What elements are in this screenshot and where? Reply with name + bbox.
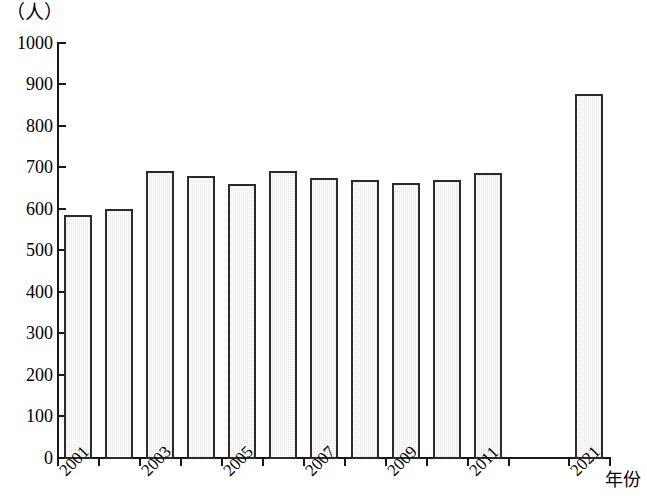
y-tick-label-800: 800 xyxy=(1,117,53,135)
y-tick-label-400: 400 xyxy=(1,283,53,301)
x-tick-3 xyxy=(180,459,182,466)
x-tick-5 xyxy=(262,459,264,466)
y-tick-label-100: 100 xyxy=(1,407,53,425)
bar-2002 xyxy=(105,209,133,459)
bar-2003 xyxy=(146,171,174,459)
y-tick-700 xyxy=(59,166,66,168)
bar-2021 xyxy=(575,94,603,459)
y-tick-label-200: 200 xyxy=(1,366,53,384)
y-tick-label-1000: 1000 xyxy=(1,34,53,52)
y-tick-label-300: 300 xyxy=(1,324,53,342)
y-tick-label-600: 600 xyxy=(1,200,53,218)
y-tick-1000 xyxy=(59,42,66,44)
bar-2006 xyxy=(269,171,297,459)
bar-2011 xyxy=(474,173,502,459)
y-tick-800 xyxy=(59,125,66,127)
bar-2009 xyxy=(392,183,420,459)
y-tick-label-500: 500 xyxy=(1,241,53,259)
y-tick-600 xyxy=(59,208,66,210)
bar-2004 xyxy=(187,176,215,459)
x-axis-title: 年份 xyxy=(605,470,641,490)
y-axis-unit-label: （人） xyxy=(6,2,63,24)
x-tick-1 xyxy=(98,459,100,466)
x-tick-9 xyxy=(426,459,428,466)
y-tick-label-900: 900 xyxy=(1,75,53,93)
bar-chart: （人） 1000 900 800 700 600 500 400 300 200… xyxy=(0,0,647,501)
bar-2001 xyxy=(64,215,92,459)
bar-2010 xyxy=(433,180,461,459)
y-tick-900 xyxy=(59,83,66,85)
x-tick-13 xyxy=(609,459,611,466)
x-tick-7 xyxy=(344,459,346,466)
y-tick-label-0: 0 xyxy=(1,449,53,467)
bar-2008 xyxy=(351,180,379,459)
bar-2005 xyxy=(228,184,256,459)
bar-2007 xyxy=(310,178,338,459)
y-tick-label-700: 700 xyxy=(1,158,53,176)
x-tick-11 xyxy=(508,459,510,466)
